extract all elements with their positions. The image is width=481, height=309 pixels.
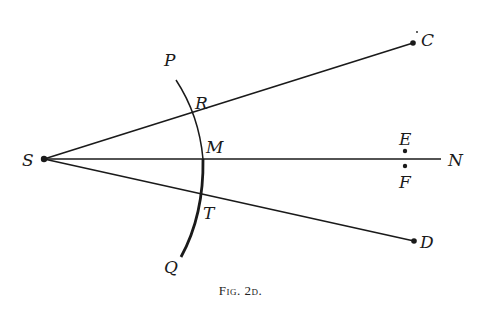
diagram-canvas: S P R M T Q C D E F N [0, 0, 481, 309]
point-F [403, 164, 407, 168]
line-SD [44, 159, 414, 241]
point-S [41, 156, 47, 162]
label-C: C [421, 30, 434, 50]
diagram-figure: S P R M T Q C D E F N Fig. 2d. [0, 0, 481, 309]
label-T: T [203, 203, 216, 223]
point-C-mark [416, 31, 418, 33]
line-SC [44, 43, 413, 159]
label-R: R [194, 93, 208, 113]
arc-PM [176, 80, 203, 159]
label-N: N [447, 150, 464, 170]
point-D [411, 238, 417, 244]
label-P: P [163, 50, 176, 70]
label-F: F [398, 172, 412, 192]
label-D: D [419, 232, 434, 252]
label-M: M [205, 137, 224, 157]
arc-MQ [181, 159, 203, 257]
figure-caption: Fig. 2d. [0, 283, 481, 299]
label-Q: Q [164, 257, 178, 277]
label-E: E [398, 129, 412, 149]
point-C [410, 40, 416, 46]
point-E [403, 149, 407, 153]
label-S: S [22, 150, 34, 170]
